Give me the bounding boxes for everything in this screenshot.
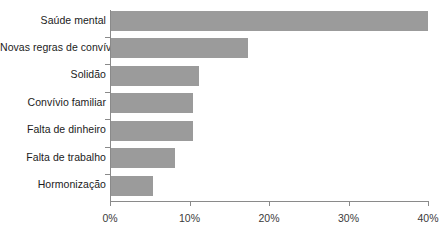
- bar: [110, 121, 193, 141]
- x-axis-tick-label: 40%: [417, 212, 438, 224]
- y-axis-tick: [105, 119, 110, 120]
- x-axis-tick: [428, 201, 429, 206]
- category-axis-labels: Saúde mental Novas regras de convívio So…: [0, 0, 106, 201]
- x-axis-tick: [190, 201, 191, 206]
- y-axis-tick: [105, 64, 110, 65]
- bar: [110, 176, 153, 196]
- bar: [110, 11, 428, 31]
- x-axis-tick-label: 20%: [258, 212, 279, 224]
- y-axis-tick: [105, 147, 110, 148]
- horizontal-bar-chart: Saúde mental Novas regras de convívio So…: [0, 0, 448, 234]
- plot-area: [110, 10, 428, 201]
- category-label: Solidão: [0, 68, 106, 80]
- bar: [110, 93, 193, 113]
- bar: [110, 38, 248, 58]
- x-axis-tick: [110, 201, 111, 206]
- category-label: Falta de dinheiro: [0, 123, 106, 135]
- category-label: Hormonização: [0, 178, 106, 190]
- y-axis-line: [110, 10, 111, 201]
- x-axis-tick: [269, 201, 270, 206]
- category-label: Novas regras de convívio: [0, 41, 106, 53]
- bar: [110, 148, 175, 168]
- y-axis-tick: [105, 92, 110, 93]
- bar: [110, 66, 199, 86]
- category-label: Saúde mental: [0, 14, 106, 26]
- y-axis-tick: [105, 37, 110, 38]
- x-axis-tick-label: 10%: [179, 212, 200, 224]
- x-axis-tick-label: 30%: [338, 212, 359, 224]
- y-axis-tick: [105, 174, 110, 175]
- category-label: Convívio familiar: [0, 96, 106, 108]
- x-axis-tick: [349, 201, 350, 206]
- x-axis-tick-label: 0%: [102, 212, 117, 224]
- category-label: Falta de trabalho: [0, 151, 106, 163]
